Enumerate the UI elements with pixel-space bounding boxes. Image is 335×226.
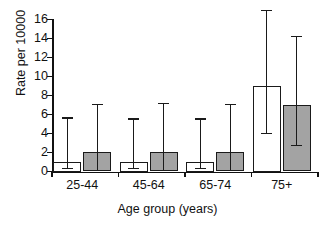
x-axis-title: Age group (years) <box>0 202 335 216</box>
error-bar-cap-lower <box>291 145 302 146</box>
y-axis-tick-label: 4 <box>8 127 48 140</box>
plot-area <box>53 20 318 172</box>
y-axis-tick-label: 8 <box>8 89 48 102</box>
x-axis-tick <box>118 172 119 177</box>
error-bar-cap-lower <box>261 133 272 134</box>
x-axis-category-label: 75+ <box>252 178 312 192</box>
x-axis-category-label: 45-64 <box>119 178 179 192</box>
x-axis-tick <box>251 172 252 177</box>
error-bar-whisker <box>133 118 134 167</box>
error-bar-cap-lower <box>128 168 139 169</box>
error-bar-cap-upper <box>261 10 272 11</box>
y-axis-tick-label: 12 <box>8 51 48 64</box>
error-bar-cap-upper <box>128 118 139 119</box>
error-bar-cap-upper <box>225 104 236 105</box>
y-axis-tick-label: 10 <box>8 70 48 83</box>
error-bar-cap-lower <box>225 170 236 171</box>
y-axis-tick-label: 2 <box>8 146 48 159</box>
error-bar-cap-upper <box>62 117 73 118</box>
error-bar-cap-upper <box>158 103 169 104</box>
error-bar-cap-upper <box>92 104 103 105</box>
error-bar-cap-lower <box>195 168 206 169</box>
error-bar-whisker <box>266 10 267 133</box>
error-bar-whisker <box>296 36 297 145</box>
error-bar-whisker <box>163 103 164 170</box>
error-bar-cap-upper <box>195 118 206 119</box>
error-bar-cap-lower <box>62 168 73 169</box>
error-bar-cap-lower <box>92 170 103 171</box>
y-axis-tick-label: 6 <box>8 108 48 121</box>
x-axis-category-label: 65-74 <box>185 178 245 192</box>
x-axis-tick <box>51 172 52 177</box>
x-axis-category-label: 25-44 <box>52 178 112 192</box>
x-axis-tick <box>184 172 185 177</box>
error-bar-cap-lower <box>158 170 169 171</box>
y-axis-tick-label: 16 <box>8 13 48 26</box>
error-bar-cap-upper <box>291 36 302 37</box>
error-bar-whisker <box>200 118 201 167</box>
y-axis-tick-label: 14 <box>8 32 48 45</box>
y-axis-tick-label: 0 <box>8 165 48 178</box>
x-axis-tick <box>317 172 318 177</box>
error-bar-whisker <box>67 117 68 167</box>
chart-container: Rate per 10000 Age group (years) 0246810… <box>0 0 335 226</box>
error-bar-whisker <box>97 104 98 170</box>
error-bar-whisker <box>230 104 231 170</box>
